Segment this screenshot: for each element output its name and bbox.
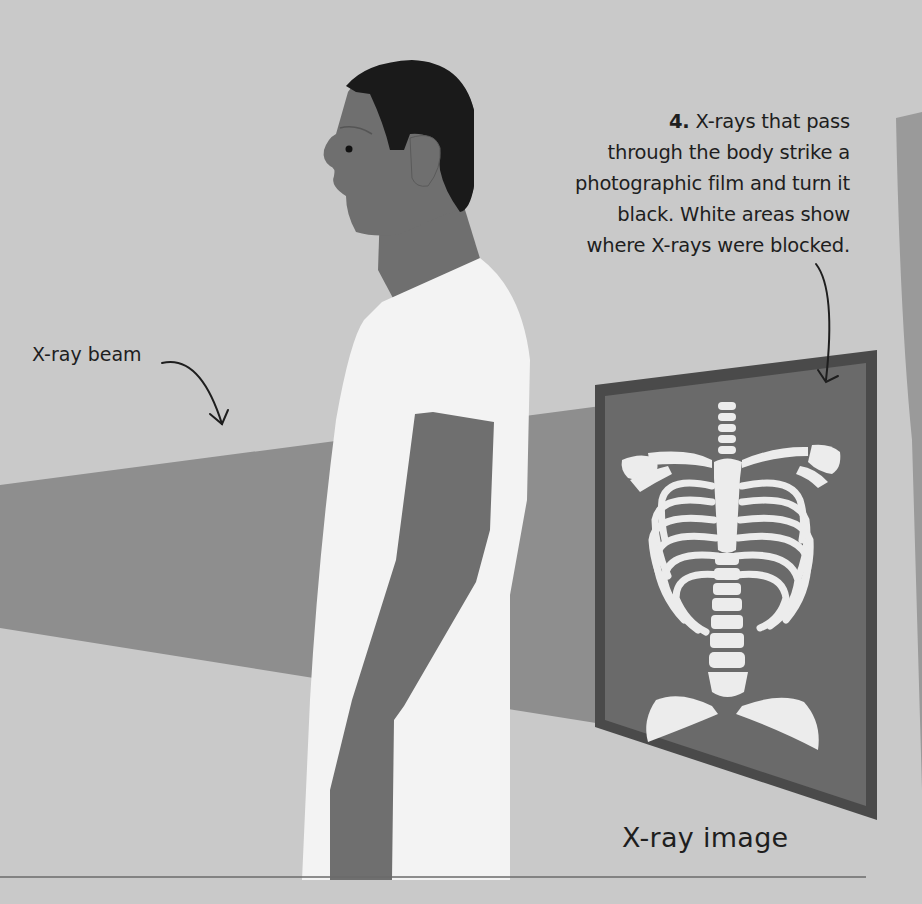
xray-image-label: X-ray image (622, 822, 789, 853)
step-number: 4. (669, 110, 690, 133)
caption-line-2: through the body strike a (520, 137, 850, 168)
step4-caption: 4. X-rays that pass through the body str… (520, 106, 850, 261)
xray-beam-label: X-ray beam (32, 343, 142, 365)
caption-line-3: photographic film and turn it (520, 168, 850, 199)
caption-line-1: 4. X-rays that pass (520, 106, 850, 137)
caption-line-4: black. White areas show (520, 199, 850, 230)
caption-line-5: where X-rays were blocked. (520, 230, 850, 261)
caption-line-text: X-rays that pass (695, 110, 850, 133)
eye-icon (346, 146, 353, 153)
